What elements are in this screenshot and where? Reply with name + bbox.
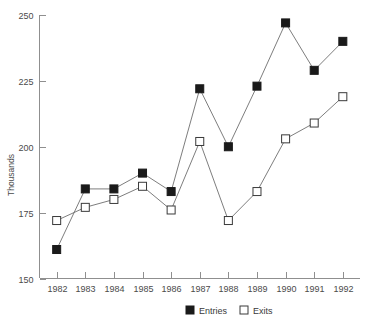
legend-label-entries: Entries — [199, 306, 228, 316]
legend-label-exits: Exits — [253, 306, 273, 316]
x-tick-label-1985: 1985 — [133, 284, 153, 294]
y-tick-label-200: 200 — [18, 143, 33, 153]
x-tick-label-1986: 1986 — [161, 284, 181, 294]
y-tick-label-225: 225 — [18, 77, 33, 87]
x-tick-label-1987: 1987 — [190, 284, 210, 294]
y-axis-ticks — [40, 16, 46, 280]
datapoint-exits-1982 — [53, 217, 61, 225]
x-tick-label-1983: 1983 — [75, 284, 95, 294]
datapoint-exits-1991 — [310, 119, 318, 127]
datapoint-entries-1986 — [167, 188, 175, 196]
series-line-entries — [57, 23, 343, 250]
x-tick-label-1992: 1992 — [333, 284, 353, 294]
datapoint-exits-1986 — [167, 206, 175, 214]
datapoint-entries-1991 — [310, 66, 318, 74]
series-line-exits — [57, 97, 343, 221]
datapoint-entries-1982 — [53, 246, 61, 254]
y-tick-label-150: 150 — [18, 275, 33, 285]
datapoint-entries-1988 — [224, 143, 232, 151]
line-chart: 150175200225250 198219831984198519861987… — [0, 0, 366, 327]
datapoint-entries-1983 — [81, 185, 89, 193]
y-axis-tick-labels: 150175200225250 — [18, 11, 33, 285]
x-tick-label-1984: 1984 — [104, 284, 124, 294]
y-axis-title: Thousands — [6, 154, 16, 196]
y-tick-label-250: 250 — [18, 11, 33, 21]
x-tick-label-1990: 1990 — [276, 284, 296, 294]
chart-legend: Entries Exits — [186, 306, 273, 316]
x-axis-ticks — [58, 272, 344, 279]
datapoint-entries-1985 — [139, 169, 147, 177]
datapoint-entries-1990 — [282, 19, 290, 27]
datapoint-exits-1985 — [139, 182, 147, 190]
series-markers-exits — [53, 93, 347, 225]
y-tick-label-175: 175 — [18, 209, 33, 219]
chart-container: 150175200225250 198219831984198519861987… — [0, 0, 366, 327]
datapoint-exits-1988 — [224, 217, 232, 225]
datapoint-exits-1992 — [339, 93, 347, 101]
x-tick-label-1982: 1982 — [47, 284, 67, 294]
datapoint-exits-1990 — [282, 135, 290, 143]
x-tick-label-1991: 1991 — [304, 284, 324, 294]
datapoint-exits-1987 — [196, 137, 204, 145]
datapoint-exits-1984 — [110, 195, 118, 203]
legend-swatch-entries — [186, 306, 194, 314]
series-markers-entries — [53, 19, 347, 254]
datapoint-entries-1984 — [110, 185, 118, 193]
x-axis-tick-labels: 1982198319841985198619871988198919901991… — [47, 284, 353, 294]
datapoint-exits-1989 — [253, 188, 261, 196]
datapoint-entries-1987 — [196, 85, 204, 93]
x-tick-label-1989: 1989 — [247, 284, 267, 294]
datapoint-exits-1983 — [81, 203, 89, 211]
datapoint-entries-1992 — [339, 37, 347, 45]
x-tick-label-1988: 1988 — [218, 284, 238, 294]
legend-swatch-exits — [240, 306, 248, 314]
datapoint-entries-1989 — [253, 82, 261, 90]
